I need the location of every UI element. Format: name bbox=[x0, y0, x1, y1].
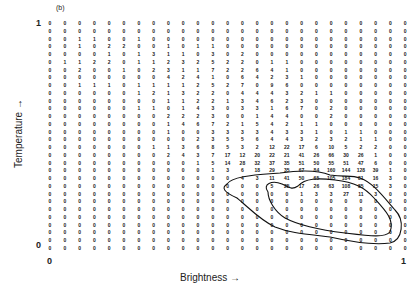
outer-contour bbox=[224, 171, 401, 244]
contour-lines bbox=[0, 0, 420, 291]
inner-contour bbox=[266, 179, 391, 236]
